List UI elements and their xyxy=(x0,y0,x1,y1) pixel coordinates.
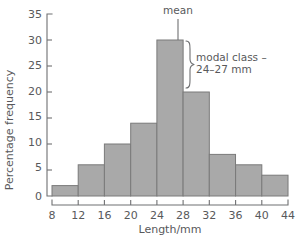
modal-class-brace xyxy=(186,41,194,88)
y-tick-label: 15 xyxy=(28,110,42,123)
x-tick-label: 8 xyxy=(49,209,56,222)
bar xyxy=(131,123,157,196)
x-tick-label: 40 xyxy=(255,209,269,222)
bar xyxy=(183,92,209,196)
mean-label: mean xyxy=(163,4,193,16)
y-axis-tick-labels: 35 30 25 20 15 10 5 0 xyxy=(28,8,42,203)
x-tick-label: 12 xyxy=(71,209,85,222)
bars-group xyxy=(52,40,288,196)
bar xyxy=(236,165,262,196)
x-tick-label: 44 xyxy=(281,209,295,222)
y-tick-label: 20 xyxy=(28,85,42,98)
x-tick-label: 28 xyxy=(176,209,190,222)
bar xyxy=(157,40,183,196)
modal-class-label-line2: 24–27 mm xyxy=(196,63,252,75)
y-axis-ticks xyxy=(47,40,52,170)
histogram-chart: Percentage frequency 35 30 25 20 15 10 5… xyxy=(0,0,303,238)
x-tick-label: 20 xyxy=(124,209,138,222)
chart-svg: Percentage frequency 35 30 25 20 15 10 5… xyxy=(0,0,303,238)
modal-class-annotation: modal class – 24–27 mm xyxy=(186,41,267,88)
y-tick-label: 5 xyxy=(35,161,42,174)
bar xyxy=(52,186,78,196)
x-tick-label: 24 xyxy=(150,209,164,222)
modal-class-label-line1: modal class – xyxy=(196,51,267,63)
x-axis-line xyxy=(52,200,288,205)
bar xyxy=(104,144,130,196)
y-tick-label: 10 xyxy=(28,136,42,149)
y-axis-title: Percentage frequency xyxy=(3,69,16,190)
x-tick-label: 32 xyxy=(202,209,216,222)
x-tick-label: 16 xyxy=(97,209,111,222)
bar xyxy=(262,175,288,196)
x-axis-ticks xyxy=(78,200,262,205)
bar xyxy=(209,154,235,196)
y-tick-label: 30 xyxy=(28,34,42,47)
y-tick-label: 25 xyxy=(28,59,42,72)
bar xyxy=(78,165,104,196)
x-axis-title: Length/mm xyxy=(138,223,201,236)
x-axis-tick-labels: 8 12 16 20 24 28 32 36 40 44 xyxy=(49,209,296,222)
x-tick-label: 36 xyxy=(229,209,243,222)
y-tick-label: 35 xyxy=(28,8,42,21)
mean-annotation: mean xyxy=(163,4,193,40)
y-axis-line xyxy=(47,14,52,196)
y-tick-label: 0 xyxy=(35,190,42,203)
